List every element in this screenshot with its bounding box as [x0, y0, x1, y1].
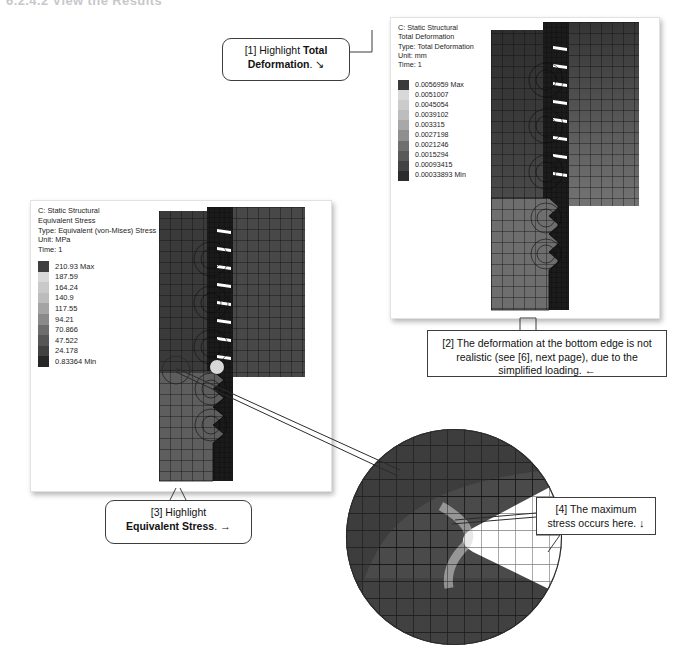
callout-maximum-stress-here[interactable]: [4] The maximum stress occurs here. ↓ — [536, 497, 656, 535]
stress-header-line-2: Equivalent Stress — [38, 216, 156, 226]
legend-row: 0.83364 Min — [38, 356, 96, 367]
callout-2-arrow-icon: ← — [585, 364, 596, 376]
callout-2-text: [2] The deformation at the bottom edge i… — [442, 337, 651, 376]
callout-3-prefix: [3] Highlight — [151, 506, 206, 518]
legend-label: 0.0027198 — [415, 132, 449, 139]
legend-swatch — [398, 120, 409, 130]
detail-thread-root-mesh — [345, 428, 563, 646]
stress-contour-plot — [159, 207, 329, 489]
legend-label: 140.9 — [55, 294, 74, 302]
legend-row: 70.866 — [38, 325, 96, 336]
legend-label: 0.00033893 Min — [415, 172, 466, 179]
legend-label: 0.0021246 — [415, 142, 449, 149]
deformation-mesh-viewport[interactable] — [491, 22, 657, 314]
total-deformation-result-panel[interactable]: C: Static Structural Total Deformation T… — [390, 17, 660, 319]
page-title: 6.2.4.2 View the Results — [6, 0, 162, 8]
deformation-header-line-4: Unit: mm — [398, 51, 474, 60]
legend-row: 0.0051007 — [398, 90, 466, 100]
deformation-legend-header: C: Static Structural Total Deformation T… — [398, 23, 474, 69]
legend-label: 47.522 — [55, 337, 78, 345]
callout-3-bold: Equivalent Stress — [126, 520, 214, 532]
legend-swatch — [398, 110, 409, 120]
legend-swatch — [38, 325, 49, 336]
stress-color-legend: 210.93 Max187.59164.24140.9117.5594.2170… — [38, 261, 96, 367]
legend-row: 164.24 — [38, 282, 96, 293]
legend-label: 0.0051007 — [415, 92, 449, 99]
stress-mesh-viewport[interactable] — [159, 207, 329, 489]
legend-swatch — [398, 80, 409, 90]
callout-3-arrow-icon: → — [220, 520, 231, 532]
legend-label: 117.55 — [55, 305, 77, 313]
callout-3-suffix: . — [214, 520, 217, 532]
callout-1-arrow-icon: ↘ — [315, 58, 324, 70]
stress-header-line-3: Type: Equivalent (von-Mises) Stress — [38, 226, 156, 236]
legend-swatch — [38, 314, 49, 325]
legend-swatch — [398, 171, 409, 181]
legend-swatch — [38, 293, 49, 304]
legend-swatch — [398, 130, 409, 140]
legend-label: 70.866 — [55, 326, 78, 334]
legend-swatch — [398, 100, 409, 110]
legend-row: 0.0015294 — [398, 151, 466, 161]
legend-label: 24.178 — [55, 347, 78, 355]
legend-swatch — [38, 272, 49, 283]
legend-row: 0.0027198 — [398, 130, 466, 140]
legend-swatch — [38, 335, 49, 346]
deformation-header-line-3: Type: Total Deformation — [398, 42, 474, 51]
legend-label: 0.0045054 — [415, 102, 449, 109]
legend-row: 140.9 — [38, 293, 96, 304]
legend-row: 94.21 — [38, 314, 96, 325]
legend-label: 0.00093415 — [415, 162, 452, 169]
legend-label: 0.0039102 — [415, 112, 449, 119]
deformation-color-legend: 0.0056959 Max0.00510070.00450540.0039102… — [398, 80, 466, 181]
legend-label: 210.93 Max — [55, 263, 94, 271]
legend-label: 187.59 — [55, 273, 78, 281]
legend-label: 94.21 — [55, 316, 74, 324]
legend-swatch — [38, 356, 49, 367]
legend-swatch — [38, 261, 49, 272]
legend-row: 0.0056959 Max — [398, 80, 466, 90]
legend-row: 0.0045054 — [398, 100, 466, 110]
callout-1-prefix: [1] Highlight — [245, 44, 303, 56]
legend-row: 117.55 — [38, 303, 96, 314]
stress-header-line-1: C: Static Structural — [38, 206, 156, 216]
legend-label: 164.24 — [55, 284, 78, 292]
legend-swatch — [38, 346, 49, 357]
legend-row: 187.59 — [38, 272, 96, 283]
legend-row: 210.93 Max — [38, 261, 96, 272]
legend-label: 0.83364 Min — [55, 358, 96, 366]
stress-header-line-5: Time: 1 — [38, 245, 156, 255]
page-root: 6.2.4.2 View the Results C: Static Struc… — [0, 0, 674, 656]
deformation-header-line-1: C: Static Structural — [398, 23, 474, 32]
legend-row: 0.0021246 — [398, 141, 466, 151]
deformation-contour-plot — [491, 22, 657, 314]
callout-highlight-equivalent-stress[interactable]: [3] Highlight Equivalent Stress. → — [105, 500, 252, 544]
callout-4-arrow-icon: ↓ — [639, 517, 645, 529]
equivalent-stress-result-panel[interactable]: C: Static Structural Equivalent Stress T… — [30, 200, 332, 492]
legend-row: 0.00093415 — [398, 161, 466, 171]
callout-4-text: [4] The maximum stress occurs here. — [547, 503, 636, 529]
callout-highlight-total-deformation[interactable]: [1] Highlight Total Deformation. ↘ — [222, 38, 350, 81]
legend-swatch — [38, 282, 49, 293]
legend-row: 0.00033893 Min — [398, 171, 466, 181]
legend-swatch — [398, 141, 409, 151]
legend-row: 24.178 — [38, 346, 96, 357]
legend-swatch — [398, 90, 409, 100]
deformation-header-line-2: Total Deformation — [398, 32, 474, 41]
zoom-detail-circle[interactable] — [345, 428, 563, 646]
legend-label: 0.0015294 — [415, 152, 449, 159]
legend-swatch — [398, 161, 409, 171]
callout-deformation-not-realistic[interactable]: [2] The deformation at the bottom edge i… — [427, 330, 667, 377]
legend-swatch — [398, 151, 409, 161]
legend-row: 47.522 — [38, 335, 96, 346]
legend-label: 0.003315 — [415, 122, 445, 129]
callout-1-suffix: . — [310, 58, 313, 70]
legend-label: 0.0056959 Max — [415, 82, 464, 89]
stress-legend-header: C: Static Structural Equivalent Stress T… — [38, 206, 156, 255]
legend-swatch — [38, 303, 49, 314]
legend-row: 0.003315 — [398, 120, 466, 130]
legend-row: 0.0039102 — [398, 110, 466, 120]
stress-header-line-4: Unit: MPa — [38, 235, 156, 245]
deformation-header-line-5: Time: 1 — [398, 60, 474, 69]
